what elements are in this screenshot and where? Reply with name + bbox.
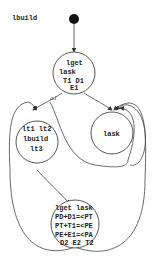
node-3-line-4: D2 E2 T2 [60, 239, 94, 247]
node-0-line-1: lask [59, 68, 76, 76]
state-node-1[interactable]: lt1 lt2 lbuild lt3 [16, 121, 58, 163]
node-3-line-1: PD+D1=<PT [55, 213, 93, 221]
state-node-2[interactable]: lask [91, 112, 133, 154]
node-2-line-0: lask [103, 130, 120, 138]
start-label: lbuild [12, 14, 37, 22]
node-3-line-2: PT+T1=<PE [55, 222, 93, 230]
node-0-line-0: lget [66, 59, 83, 67]
node-3-line-0: lget lask [55, 204, 93, 212]
edge-n0-n2 [84, 93, 112, 110]
node-1-line-1: lbuild [23, 135, 48, 143]
edge-n1-n3 [37, 170, 70, 204]
start-dot [69, 14, 79, 24]
state-diagram: lbuild a1 lget lask T1 D1 E1 lt1 lt2 lbu… [0, 0, 156, 267]
edge-n0-n1 [33, 93, 62, 110]
node-1-line-2: lt3 [30, 145, 43, 153]
state-node-0[interactable]: lget lask T1 D1 E1 [53, 52, 95, 94]
state-node-3[interactable]: lget lask PD+D1=<PT PT+T1=<PE PE+E1=<PA … [51, 200, 99, 248]
node-3-line-3: PE+E1=<PA [55, 231, 94, 239]
edge-label-a1: a1 [50, 94, 57, 102]
node-0-line-3: E1 [70, 84, 78, 92]
node-1-line-0: lt1 lt2 [22, 125, 51, 133]
